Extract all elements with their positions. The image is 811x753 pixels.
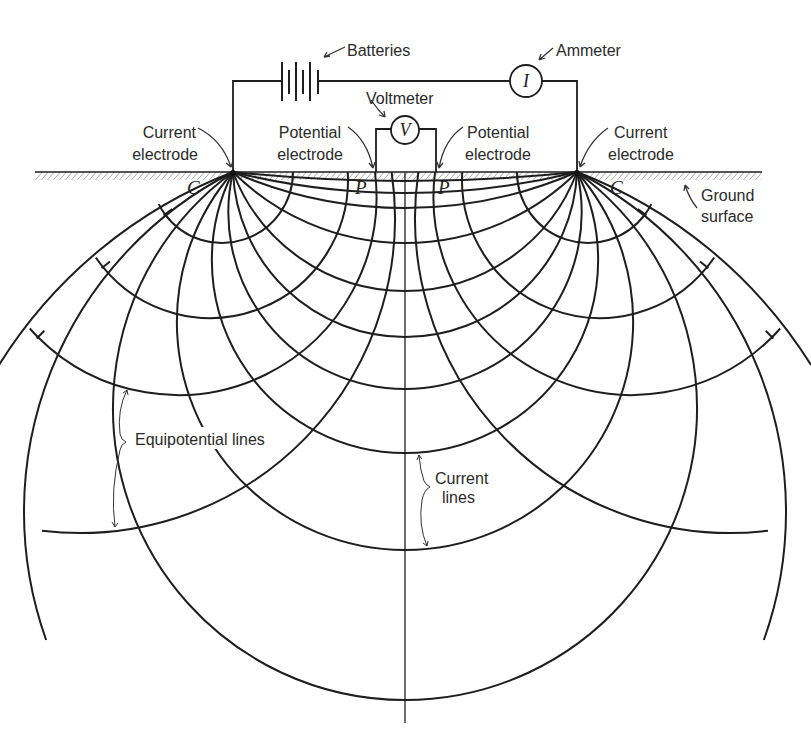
potential-electrode-right-label-1: Potential <box>467 124 529 141</box>
voltmeter: V <box>391 116 419 144</box>
current-electrode-right-label-2: electrode <box>608 146 674 163</box>
current-electrode-right-arrow-icon <box>579 128 608 167</box>
equipotential-brace-icon <box>112 390 128 527</box>
current-lines-label-2: lines <box>442 489 475 506</box>
current-wire-right <box>542 81 577 172</box>
battery-icon <box>282 62 318 101</box>
equipotential-line <box>42 172 395 533</box>
potential-electrode-right-arrow-icon <box>437 127 463 168</box>
equipotential-line <box>38 172 376 395</box>
electrode-p-right: P <box>437 177 450 198</box>
current-lines-brace-icon <box>417 455 430 546</box>
ammeter: I <box>510 65 542 97</box>
equipotential-tick <box>700 262 708 269</box>
equipotential-line <box>434 172 772 395</box>
ground-hatching <box>35 172 762 180</box>
equipotential-line-ext <box>772 329 780 338</box>
resistivity-diagram: I V Batteries Ammeter Voltmeter Curren <box>0 0 811 753</box>
electrode-p-left: P <box>354 177 367 198</box>
ammeter-symbol: I <box>522 71 530 91</box>
potential-electrode-left-label-1: Potential <box>279 124 341 141</box>
current-electrode-right-marker <box>574 170 580 176</box>
current-lines-label-1: Current <box>435 470 489 487</box>
labels: Batteries Ammeter Voltmeter Current elec… <box>132 42 754 506</box>
ground-surface-label-2: surface <box>701 208 754 225</box>
current-electrode-left-label-2: electrode <box>132 146 198 163</box>
ammeter-arrow-icon <box>539 48 553 60</box>
ground-surface-label-1: Ground <box>701 187 754 204</box>
batteries-arrow-icon <box>324 47 345 57</box>
equipotential-line <box>103 172 348 318</box>
current-electrode-right-label-1: Current <box>614 124 668 141</box>
potential-wire-right <box>419 129 436 172</box>
ground-surface <box>35 172 762 180</box>
equipotential-line-ext <box>30 329 38 338</box>
equipotential-tick <box>102 262 110 269</box>
equipotential-line <box>462 172 707 318</box>
current-wire-left <box>233 81 282 172</box>
potential-electrode-right-label-2: electrode <box>465 146 531 163</box>
equipotential-line-ext <box>96 258 103 268</box>
ground-surface-arrow-icon <box>684 185 697 208</box>
current-line-outer <box>24 172 233 640</box>
ammeter-label: Ammeter <box>556 42 622 59</box>
potential-electrode-left-arrow-icon <box>348 127 375 168</box>
current-electrode-left-arrow-icon <box>198 128 233 167</box>
current-electrode-left-label-1: Current <box>143 124 197 141</box>
electrode-c-right: C <box>610 177 623 198</box>
electrode-c-left: C <box>187 177 200 198</box>
potential-electrode-left-label-2: electrode <box>277 146 343 163</box>
potential-wire-left <box>376 129 391 172</box>
batteries-label: Batteries <box>347 42 410 59</box>
equipotential-line-ext <box>707 258 714 268</box>
equipotential-lines-label: Equipotential lines <box>135 431 265 448</box>
current-electrode-left-marker <box>230 170 236 176</box>
voltmeter-label: Voltmeter <box>366 90 434 107</box>
current-line-outer <box>577 172 786 640</box>
